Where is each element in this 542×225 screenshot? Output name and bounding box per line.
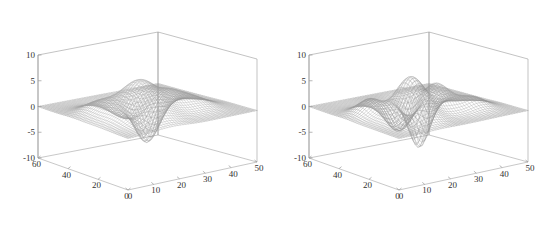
axes-floor-edge-3: [429, 135, 528, 162]
y-tick-label-2: 40: [62, 170, 72, 180]
axes-floor-edge-0: [309, 158, 399, 190]
x-tick-label-0: 0: [399, 191, 404, 201]
figure-canvas: -10-50510020406001020304050 -10-50510020…: [0, 0, 542, 225]
mesh-row-6: [388, 107, 516, 134]
plot-panel-left[interactable]: -10-50510020406001020304050: [0, 0, 271, 225]
y-tick-1: [98, 177, 101, 179]
x-tick-3: [474, 171, 477, 173]
axes-top-edge-0: [38, 32, 158, 55]
x-axis: 01020304050: [126, 160, 265, 201]
x-tick-2: [448, 177, 451, 179]
z-tick-label-1: -5: [299, 127, 307, 137]
surface-plot-right[interactable]: -10-50510020406001020304050: [271, 0, 542, 225]
x-tick-1: [422, 182, 425, 184]
x-tick-label-3: 30: [474, 174, 484, 184]
x-tick-label-5: 50: [255, 163, 265, 173]
x-tick-label-0: 0: [128, 191, 133, 201]
axes-floor-edge-0: [38, 158, 128, 190]
x-axis: 01020304050: [397, 160, 536, 201]
y-axis: 0204060: [32, 156, 131, 201]
x-tick-4: [500, 166, 503, 168]
axes-top-edge-0: [309, 32, 429, 55]
surface-plot-left[interactable]: -10-50510020406001020304050: [0, 0, 271, 225]
plot-panel-right[interactable]: -10-50510020406001020304050: [271, 0, 542, 225]
y-tick-1: [369, 177, 372, 179]
y-tick-2: [68, 167, 71, 169]
y-tick-label-3: 60: [303, 159, 313, 169]
z-tick-label-3: 5: [31, 76, 36, 86]
axes-box-frame: [38, 32, 257, 190]
y-tick-label-3: 60: [32, 159, 42, 169]
x-tick-label-1: 10: [151, 185, 161, 195]
x-tick-label-4: 40: [229, 169, 239, 179]
axes-floor-edge-2: [38, 135, 158, 158]
axes-top-edge-1: [429, 32, 528, 59]
z-tick-label-1: -5: [28, 127, 36, 137]
mesh-col-0: [309, 107, 399, 139]
z-tick-label-2: 0: [302, 102, 307, 112]
x-tick-label-1: 10: [422, 185, 432, 195]
x-tick-4: [229, 166, 232, 168]
x-tick-1: [151, 182, 154, 184]
z-tick-label-2: 0: [31, 102, 36, 112]
x-tick-label-2: 20: [448, 180, 458, 190]
mesh-row-32: [69, 93, 192, 125]
y-tick-2: [339, 167, 342, 169]
y-tick-label-2: 40: [333, 170, 343, 180]
x-tick-label-5: 50: [526, 163, 536, 173]
mesh-wireframe: [309, 76, 528, 147]
axes-floor-edge-3: [158, 135, 257, 162]
axes-floor-edge-2: [309, 135, 429, 158]
x-tick-2: [177, 177, 180, 179]
z-tick-label-4: 10: [297, 50, 307, 60]
mesh-wireframe: [38, 79, 257, 142]
z-tick-label-3: 5: [302, 76, 307, 86]
x-tick-label-2: 20: [177, 180, 187, 190]
x-tick-3: [203, 171, 206, 173]
x-tick-label-4: 40: [500, 169, 510, 179]
y-tick-label-1: 20: [363, 180, 373, 190]
axes-top-edge-1: [158, 32, 257, 59]
z-tick-label-4: 10: [26, 50, 36, 60]
y-tick-label-1: 20: [92, 180, 102, 190]
y-axis: 0204060: [303, 156, 402, 201]
x-tick-label-3: 30: [203, 174, 213, 184]
